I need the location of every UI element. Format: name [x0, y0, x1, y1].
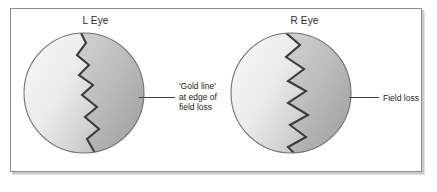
right-eye-field-diagram — [226, 29, 356, 159]
eye-title-left: L Eye — [0, 15, 198, 26]
callout-field-loss: Field loss — [383, 93, 419, 104]
leader-line-right — [349, 97, 379, 98]
eye-panel-right: R Eye — [216, 9, 421, 171]
figure-root: L Eye — [0, 0, 437, 192]
callout-gold-line: 'Gold line' at edge of field loss — [179, 81, 217, 113]
eye-title-right: R Eye — [202, 15, 407, 26]
leader-line-left — [139, 97, 175, 98]
figure-panel: L Eye — [10, 8, 422, 172]
left-eye-field-diagram — [19, 29, 149, 159]
